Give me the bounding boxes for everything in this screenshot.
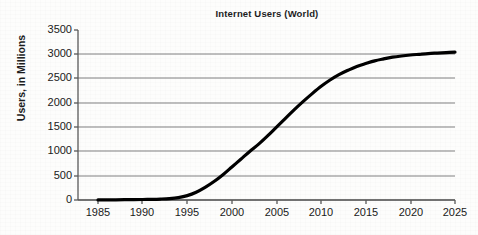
x-tick-label-1995: 1995 bbox=[164, 206, 210, 218]
x-tick-label-1990: 1990 bbox=[119, 206, 165, 218]
x-tick-label-1985: 1985 bbox=[75, 206, 121, 218]
x-tick-label-2005: 2005 bbox=[254, 206, 300, 218]
x-tick-label-2025: 2025 bbox=[432, 206, 478, 218]
chart-container: Internet Users (World) Users, in Million… bbox=[0, 0, 478, 235]
x-tick-label-2010: 2010 bbox=[298, 206, 344, 218]
x-tick-label-2020: 2020 bbox=[388, 206, 434, 218]
x-tick-label-2015: 2015 bbox=[343, 206, 389, 218]
x-tick-label-2000: 2000 bbox=[209, 206, 255, 218]
x-axis-tick-labels: 198519901995200020052010201520202025 bbox=[0, 0, 478, 235]
